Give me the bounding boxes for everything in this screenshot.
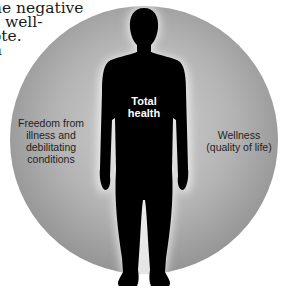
right-label: Wellness (quality of life) (196, 129, 282, 153)
left-label-line: debilitating (10, 141, 92, 153)
left-label: Freedom from illness and debilitating co… (10, 117, 92, 165)
left-label-line: conditions (10, 153, 92, 165)
center-label-line: health (114, 107, 174, 119)
left-label-line: illness and (10, 129, 92, 141)
right-label-line: Wellness (196, 129, 282, 141)
center-label-line: Total (114, 95, 174, 107)
right-label-line: (quality of life) (196, 141, 282, 153)
left-label-line: Freedom from (10, 117, 92, 129)
center-label: Total health (114, 95, 174, 119)
